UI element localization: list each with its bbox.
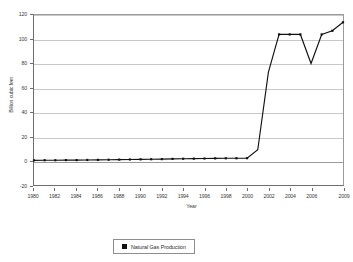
x-tick-mark <box>269 188 270 191</box>
data-point-marker <box>54 159 56 161</box>
x-tick-label: 1982 <box>49 193 60 199</box>
x-tick-mark <box>162 188 163 191</box>
y-axis-title: Billion cubic feet <box>8 63 14 127</box>
y-tick-label: 80 <box>21 60 27 66</box>
data-point-marker <box>203 157 205 159</box>
legend-label: Natural Gas Production <box>131 244 186 250</box>
x-tick-label: 1994 <box>178 193 189 199</box>
y-tick-label: 100 <box>19 36 27 42</box>
x-tick-mark <box>76 188 77 191</box>
data-point-marker <box>118 159 120 161</box>
data-point-marker <box>86 159 88 161</box>
x-tick-label: 2009 <box>339 193 350 199</box>
x-tick-label: 2000 <box>242 193 253 199</box>
data-point-marker <box>33 159 35 161</box>
y-tick-label: 40 <box>21 109 27 115</box>
y-tick-label: 120 <box>19 11 27 17</box>
x-tick-mark <box>344 188 345 191</box>
data-point-marker <box>139 158 141 160</box>
data-point-marker <box>299 33 301 35</box>
x-tick-mark <box>140 188 141 191</box>
data-point-marker <box>214 157 216 159</box>
natural-gas-production-chart: 120100806040200-20 Billion cubic feet 19… <box>0 0 353 262</box>
data-point-marker <box>182 158 184 160</box>
x-tick-mark <box>226 188 227 191</box>
x-tick-mark <box>312 188 313 191</box>
series-natural-gas-production <box>34 15 343 185</box>
x-tick-label: 1998 <box>221 193 232 199</box>
y-axis-tick-labels: 120100806040200-20 <box>0 0 33 220</box>
data-point-marker <box>65 159 67 161</box>
x-tick-label: 1986 <box>92 193 103 199</box>
series-markers <box>33 21 344 161</box>
data-point-marker <box>97 159 99 161</box>
x-tick-label: 1992 <box>156 193 167 199</box>
series-line <box>34 22 343 160</box>
data-point-marker <box>331 30 333 32</box>
x-tick-mark <box>54 188 55 191</box>
x-tick-mark <box>33 188 34 191</box>
data-point-marker <box>129 158 131 160</box>
data-point-marker <box>171 158 173 160</box>
x-tick-mark <box>97 188 98 191</box>
y-tick-label: 0 <box>24 158 27 164</box>
x-axis-tick-labels: 1980198219841986198819901992199419961998… <box>0 188 353 204</box>
data-point-marker <box>150 158 152 160</box>
data-point-marker <box>193 158 195 160</box>
data-point-marker <box>225 157 227 159</box>
y-tick-label: 60 <box>21 85 27 91</box>
y-tick-mark <box>30 186 33 187</box>
x-tick-label: 2002 <box>263 193 274 199</box>
x-tick-mark <box>290 188 291 191</box>
data-point-marker <box>278 33 280 35</box>
plot-area <box>33 14 344 186</box>
x-tick-mark <box>205 188 206 191</box>
data-point-marker <box>107 159 109 161</box>
x-tick-mark <box>119 188 120 191</box>
x-tick-label: 1984 <box>70 193 81 199</box>
data-point-marker <box>289 33 291 35</box>
x-tick-label: 1996 <box>199 193 210 199</box>
data-point-marker <box>44 159 46 161</box>
x-tick-label: 2006 <box>306 193 317 199</box>
chart-legend: Natural Gas Production <box>113 239 195 254</box>
x-tick-mark <box>247 188 248 191</box>
data-point-marker <box>342 21 344 23</box>
legend-swatch-icon <box>122 244 127 249</box>
x-axis-title: Year <box>0 203 353 209</box>
y-tick-label: 20 <box>21 134 27 140</box>
data-point-marker <box>321 33 323 35</box>
data-point-marker <box>161 158 163 160</box>
data-point-marker <box>235 157 237 159</box>
data-point-marker <box>246 157 248 159</box>
x-tick-label: 1990 <box>135 193 146 199</box>
data-point-marker <box>76 159 78 161</box>
x-tick-label: 1988 <box>113 193 124 199</box>
x-tick-label: 1980 <box>28 193 39 199</box>
x-tick-label: 2004 <box>285 193 296 199</box>
x-tick-mark <box>183 188 184 191</box>
